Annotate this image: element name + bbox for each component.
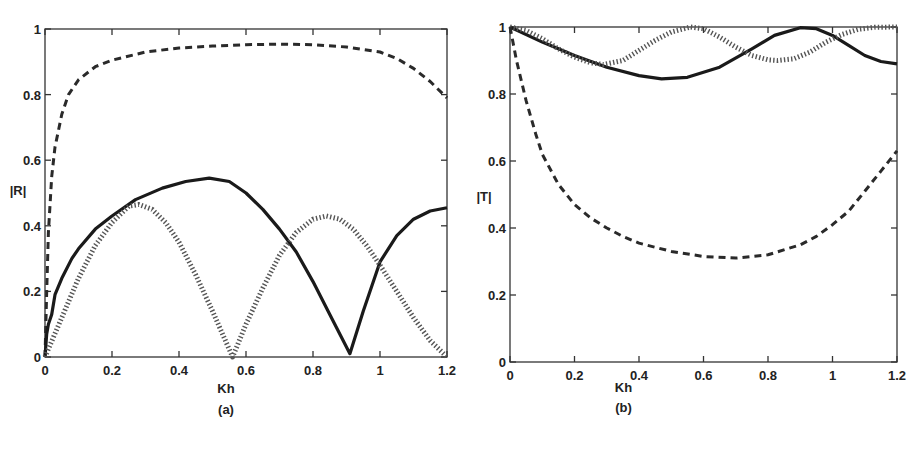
x-tick-label: 0.2 — [565, 368, 583, 383]
panel-label: (a) — [218, 402, 234, 417]
y-tick-label: 1 — [499, 20, 506, 35]
x-axis-label: Kh — [615, 380, 632, 395]
x-tick-label: 1.2 — [438, 363, 456, 378]
series-solid-line — [45, 178, 447, 357]
x-tick-label: 0.8 — [759, 368, 777, 383]
x-tick-label: 0 — [506, 368, 513, 383]
y-tick-label: 0 — [34, 350, 41, 365]
series-dashed-line — [45, 44, 447, 357]
x-tick-label: 1 — [829, 368, 836, 383]
y-axis-label: |T| — [476, 189, 491, 204]
series-dotted-line — [45, 205, 447, 358]
x-tick-label: 0.6 — [237, 363, 255, 378]
y-tick-label: 0.6 — [23, 153, 41, 168]
x-tick-label: 0.2 — [103, 363, 121, 378]
y-tick-label: 0.2 — [488, 288, 506, 303]
chart-panel-a: 00.20.40.60.811.200.20.40.60.81|R|Kh(a) — [10, 22, 456, 417]
y-tick-label: 0.2 — [23, 284, 41, 299]
x-tick-label: 0 — [41, 363, 48, 378]
series-dashed-line — [510, 27, 897, 258]
y-tick-label: 0.8 — [488, 87, 506, 102]
panel-label: (b) — [615, 400, 632, 415]
y-tick-label: 0.8 — [23, 88, 41, 103]
chart-panel-b: 00.20.40.60.811.200.20.40.60.81|T|Kh(b) — [476, 20, 906, 415]
x-axis-label: Kh — [217, 381, 234, 396]
y-tick-label: 1 — [34, 22, 41, 37]
x-tick-label: 0.4 — [630, 368, 649, 383]
series-solid-line — [510, 27, 897, 79]
x-tick-label: 1 — [376, 363, 383, 378]
x-tick-label: 0.6 — [694, 368, 712, 383]
y-tick-label: 0.4 — [488, 221, 507, 236]
y-tick-label: 0.4 — [23, 219, 42, 234]
y-tick-label: 0.6 — [488, 154, 506, 169]
plot-frame — [510, 27, 897, 362]
x-tick-label: 0.4 — [170, 363, 189, 378]
y-tick-label: 0 — [499, 355, 506, 370]
x-tick-label: 1.2 — [888, 368, 906, 383]
x-tick-label: 0.8 — [304, 363, 322, 378]
y-axis-label: |R| — [10, 183, 27, 198]
figure: 00.20.40.60.811.200.20.40.60.81|R|Kh(a) … — [0, 0, 912, 450]
